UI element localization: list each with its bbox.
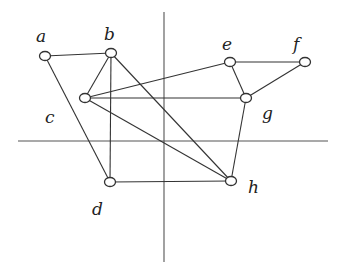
node-label-d: d (92, 199, 103, 219)
node-label-e: e (222, 34, 232, 54)
node-label-f: f (291, 34, 302, 54)
axes (18, 12, 328, 262)
node-c (80, 94, 91, 103)
edge-c-h (85, 98, 231, 181)
edge-d-h (110, 181, 231, 182)
node-h (226, 177, 237, 186)
edge-g-h (231, 98, 246, 181)
graph-diagram: abcdefgh (0, 0, 343, 267)
edge-a-d (45, 56, 110, 182)
edge-f-g (246, 62, 305, 98)
edge-e-g (230, 62, 246, 98)
edge-a-b (45, 53, 111, 56)
node-a (40, 52, 51, 61)
node-labels: abcdefgh (36, 24, 302, 219)
edge-b-c (85, 53, 111, 98)
edge-b-h (111, 53, 231, 181)
node-label-h: h (248, 177, 259, 197)
edge-c-e (85, 62, 230, 98)
node-label-c: c (45, 107, 55, 127)
node-d (105, 178, 116, 187)
node-g (241, 94, 252, 103)
node-label-a: a (36, 26, 46, 46)
node-e (225, 58, 236, 67)
node-label-b: b (104, 24, 115, 44)
node-label-g: g (262, 103, 273, 123)
node-f (300, 58, 311, 67)
edge-b-d (110, 53, 111, 182)
node-b (106, 49, 117, 58)
